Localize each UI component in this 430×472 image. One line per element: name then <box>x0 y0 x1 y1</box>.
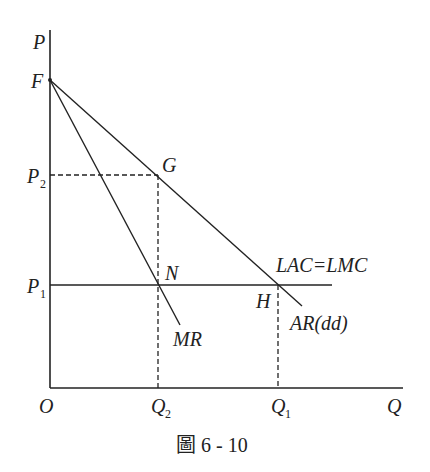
p1-subscript: 1 <box>40 287 46 301</box>
x-axis-label: Q <box>387 395 402 417</box>
point-f-label: F <box>30 70 44 92</box>
q2-subscript: 2 <box>165 407 171 421</box>
p2-label: P <box>26 165 39 187</box>
p1-label: P <box>26 275 39 297</box>
mr-label: MR <box>172 328 202 350</box>
figure-caption: 圖 6 - 10 <box>176 434 248 456</box>
point-g-label: G <box>162 154 177 176</box>
q1-subscript: 1 <box>285 407 291 421</box>
y-axis-label: P <box>32 31 45 53</box>
monopolistic-competition-diagram: P Q O F G N H P 2 P 1 Q 2 Q 1 LAC=LMC MR… <box>0 0 430 472</box>
point-n-label: N <box>164 262 180 284</box>
q2-label: Q <box>151 395 166 417</box>
p2-subscript: 2 <box>40 177 46 191</box>
mr-curve <box>50 80 180 325</box>
q1-label: Q <box>271 395 286 417</box>
ar-dd-label: AR(dd) <box>288 312 348 335</box>
point-h-label: H <box>255 290 272 312</box>
lac-lmc-label: LAC=LMC <box>275 254 368 276</box>
point-f-dot <box>48 78 52 82</box>
origin-label: O <box>39 395 53 417</box>
